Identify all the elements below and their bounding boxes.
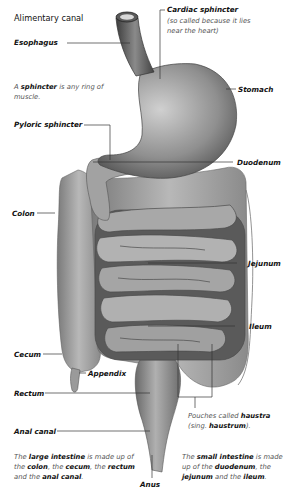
sphincter-note: A sphincter is any ring of muscle. xyxy=(14,82,104,102)
small-intestine-note: The small intestine is made up of the du… xyxy=(182,452,290,482)
label-esophagus: Esophagus xyxy=(14,39,58,46)
label-appendix: Appendix xyxy=(88,370,126,377)
label-anal-canal: Anal canal xyxy=(14,428,56,435)
stomach-shape xyxy=(98,64,237,179)
small-intestine-shape xyxy=(95,205,245,360)
large-intestine-note: The large intestine is made up of the co… xyxy=(14,452,144,482)
label-stomach: Stomach xyxy=(238,86,273,93)
label-colon: Colon xyxy=(12,210,35,217)
label-anus: Anus xyxy=(140,481,160,488)
label-duodenum: Duodenum xyxy=(237,159,281,166)
diagram-title: Alimentary canal xyxy=(14,13,83,23)
label-pyloric-sphincter: Pyloric sphincter xyxy=(14,121,82,128)
haustra-note: Pouches called haustra (sing. haustrum). xyxy=(188,411,288,431)
label-jejunum: Jejunum xyxy=(248,260,281,267)
label-ileum: Ileum xyxy=(249,323,272,330)
esophagus-shape xyxy=(116,18,154,76)
label-cardiac-sphincter: Cardiac sphincter xyxy=(167,6,238,13)
label-cecum: Cecum xyxy=(14,351,41,358)
cardiac-sphincter-note: (so called because it lies near the hear… xyxy=(167,16,267,36)
label-rectum: Rectum xyxy=(14,390,44,397)
appendix-shape xyxy=(71,368,81,392)
